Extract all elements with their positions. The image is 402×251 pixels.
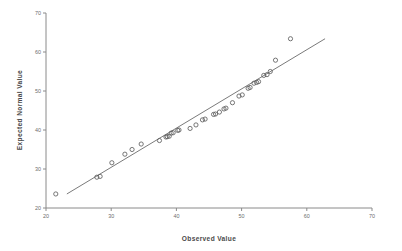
data-point-marker xyxy=(157,138,161,142)
x-axis-title: Observed Value xyxy=(182,235,236,242)
data-point-marker xyxy=(139,142,143,146)
y-tick-label: 20 xyxy=(35,205,41,211)
y-axis-ticks: 203040506070 xyxy=(35,10,46,211)
data-point-marker xyxy=(123,152,127,156)
data-point-marker xyxy=(288,37,292,41)
y-tick-label: 70 xyxy=(35,10,41,16)
x-tick-label: 60 xyxy=(304,213,310,219)
data-point-marker xyxy=(230,101,234,105)
data-point-marker xyxy=(188,126,192,130)
data-point-marker xyxy=(273,58,277,62)
reference-line xyxy=(67,39,325,194)
data-point-marker xyxy=(130,147,134,151)
y-axis-title: Expected Normal Value xyxy=(16,70,24,150)
data-points xyxy=(54,37,293,196)
data-point-marker xyxy=(203,117,207,121)
data-point-marker xyxy=(54,192,58,196)
y-tick-label: 30 xyxy=(35,166,41,172)
x-tick-label: 20 xyxy=(43,213,49,219)
x-tick-label: 70 xyxy=(369,213,375,219)
normal-probability-plot: 203040506070 203040506070 Observed Value… xyxy=(0,0,402,251)
data-point-marker xyxy=(110,161,114,165)
x-axis-ticks: 203040506070 xyxy=(43,208,375,219)
reference-line-segment xyxy=(67,39,325,194)
x-tick-label: 30 xyxy=(108,213,114,219)
y-tick-label: 40 xyxy=(35,127,41,133)
data-point-marker xyxy=(194,123,198,127)
data-point-marker xyxy=(217,110,221,114)
y-tick-label: 60 xyxy=(35,49,41,55)
y-tick-label: 50 xyxy=(35,88,41,94)
qq-plot-figure: 203040506070 203040506070 Observed Value… xyxy=(0,0,402,251)
x-tick-label: 50 xyxy=(239,213,245,219)
x-tick-label: 40 xyxy=(173,213,179,219)
